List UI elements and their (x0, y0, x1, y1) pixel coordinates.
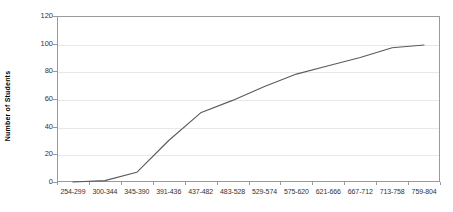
x-axis-tick-mark (344, 182, 345, 185)
y-axis-tick-label: 60 (22, 94, 53, 104)
x-axis-tick-label: 437-482 (185, 188, 217, 202)
y-axis-tick-label: 40 (22, 122, 53, 132)
x-axis-tick-label: 759-804 (408, 188, 440, 202)
y-axis-tick-label: 0 (22, 177, 53, 187)
x-axis-tick-mark (89, 182, 90, 185)
x-axis-tick-label: 621-666 (312, 188, 344, 202)
y-axis-title: Number of Students (0, 0, 14, 212)
x-axis-tick-label: 345-390 (121, 188, 153, 202)
x-axis-labels: 254-299300-344345-390391-436437-482483-5… (57, 188, 440, 202)
data-series-line (57, 16, 440, 182)
y-axis-tick-label: 120 (22, 11, 53, 21)
x-axis-tick-label: 300-344 (89, 188, 121, 202)
x-axis-tick-mark (408, 182, 409, 185)
x-axis-tick-label: 529-574 (249, 188, 281, 202)
x-axis-tick-mark (312, 182, 313, 185)
x-axis-tick-mark (153, 182, 154, 185)
x-axis-tick-mark (440, 182, 441, 185)
x-axis-tick-mark (57, 182, 58, 185)
x-axis-tick-label: 713-758 (376, 188, 408, 202)
x-axis-tick-mark (185, 182, 186, 185)
y-axis-tick-label: 80 (22, 66, 53, 76)
y-axis-tick-label: 20 (22, 149, 53, 159)
x-axis-tick-label: 391-436 (153, 188, 185, 202)
x-axis-tick-label: 254-299 (57, 188, 89, 202)
y-axis-tick-label: 100 (22, 39, 53, 49)
x-axis-tick-label: 483-528 (217, 188, 249, 202)
x-axis-tick-label: 575-620 (280, 188, 312, 202)
x-axis-tick-mark (121, 182, 122, 185)
x-axis-tick-label: 667-712 (344, 188, 376, 202)
x-axis-tick-mark (376, 182, 377, 185)
x-axis-tick-mark (280, 182, 281, 185)
x-axis-tick-mark (249, 182, 250, 185)
x-axis-tick-mark (217, 182, 218, 185)
chart-container: Number of Students 020406080100120 254-2… (0, 0, 453, 212)
